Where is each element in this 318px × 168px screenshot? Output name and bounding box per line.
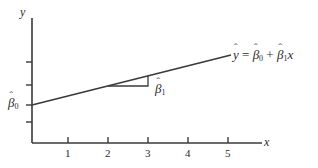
hat-accent-icon: ˆ	[254, 43, 257, 53]
beta1-slope-label: ˆβ1	[155, 82, 165, 97]
x-tick-label-1: 1	[65, 148, 71, 159]
x-tick-label-5: 5	[225, 148, 231, 159]
beta0-intercept-label: ˆβ0	[8, 96, 18, 111]
plus-sign: +	[266, 47, 273, 62]
hat-accent-icon: ˆ	[156, 77, 159, 87]
x-tick-label-3: 3	[145, 148, 151, 159]
x-axis-ticks	[68, 137, 228, 143]
x-tick-label-4: 4	[185, 148, 191, 159]
hat-accent-icon: ˆ	[234, 43, 237, 53]
regression-equation-label: ˆy = ˆβ0 + ˆβ1x	[233, 48, 293, 63]
equals-sign: =	[242, 47, 249, 62]
beta1-subscript: 1	[161, 88, 165, 97]
hat-accent-icon: ˆ	[9, 91, 12, 101]
hat-accent-icon: ˆ	[278, 43, 281, 53]
eq-beta0-symbol: ˆβ	[253, 48, 259, 61]
regression-figure: y x 1 2 3 4 5 ˆβ0 ˆβ1 ˆy = ˆβ0 + ˆβ1x	[0, 0, 318, 168]
x-axis-label: x	[264, 136, 269, 148]
y-axis-ticks	[26, 62, 32, 122]
y-axis-label: y	[20, 6, 25, 18]
eq-beta1-symbol: ˆβ	[277, 48, 283, 61]
regression-line	[32, 55, 231, 105]
beta0-subscript: 0	[14, 102, 18, 111]
yhat-symbol: ˆy	[233, 48, 239, 61]
beta1-symbol: ˆβ	[155, 82, 161, 95]
eq-x-variable: x	[287, 47, 293, 62]
eq-beta0-subscript: 0	[259, 54, 263, 63]
beta0-symbol: ˆβ	[8, 96, 14, 109]
x-tick-label-2: 2	[105, 148, 111, 159]
